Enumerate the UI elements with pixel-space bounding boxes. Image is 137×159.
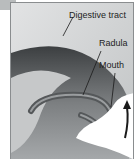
diagram-frame: Digestive tract Radula Mouth bbox=[10, 2, 134, 159]
label-radula: Radula bbox=[99, 39, 128, 48]
label-mouth: Mouth bbox=[99, 61, 124, 70]
label-digestive-tract: Digestive tract bbox=[69, 11, 126, 20]
radula-diagram bbox=[11, 3, 134, 159]
